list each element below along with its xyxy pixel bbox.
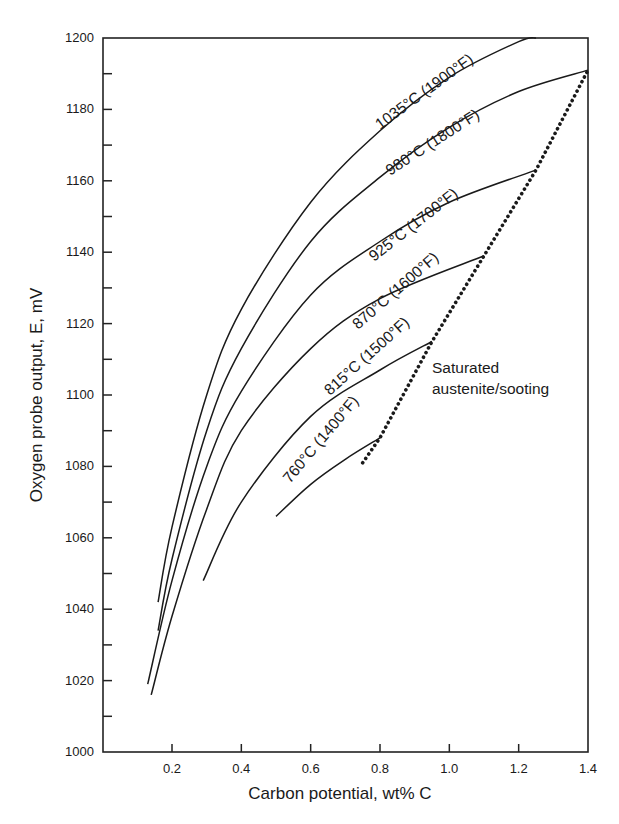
y-axis-ticks: 1000102010401060108011001120114011601180…	[65, 30, 112, 759]
isotherm-curve	[203, 342, 432, 581]
isotherm-curve	[151, 256, 484, 695]
x-axis-ticks: 0.20.40.60.81.01.21.4	[163, 744, 597, 776]
y-tick-label: 1200	[65, 30, 94, 45]
y-tick-label: 1160	[66, 173, 94, 188]
y-tick-label: 1020	[65, 673, 94, 688]
y-tick-label: 1060	[65, 530, 94, 545]
x-tick-label: 1.2	[510, 761, 528, 776]
annotation-saturated: Saturated	[432, 359, 499, 376]
x-tick-label: 1.0	[440, 761, 458, 776]
saturation-line	[363, 70, 588, 463]
series-curves	[148, 38, 588, 695]
x-tick-label: 0.2	[163, 761, 181, 776]
curve-label-925: 925°C (1700°F)	[365, 184, 461, 264]
y-tick-label: 1180	[66, 101, 94, 116]
x-tick-label: 1.4	[579, 761, 597, 776]
y-axis-title: Oxygen probe output, E, mV	[27, 287, 46, 502]
x-tick-label: 0.8	[371, 761, 389, 776]
curve-label-760: 760°C (1400°F)	[279, 392, 361, 486]
chart: 1000102010401060108011001120114011601180…	[0, 0, 619, 824]
isotherm-curve	[148, 170, 536, 684]
annotation-austenite-sooting: austenite/sooting	[432, 380, 549, 397]
x-tick-label: 0.4	[232, 761, 250, 776]
y-tick-label: 1120	[66, 316, 94, 331]
y-tick-label: 1000	[65, 744, 94, 759]
y-tick-label: 1080	[65, 458, 94, 473]
isotherm-curve	[158, 38, 536, 603]
y-tick-label: 1040	[65, 601, 94, 616]
x-tick-label: 0.6	[302, 761, 320, 776]
y-tick-label: 1100	[66, 387, 94, 402]
x-axis-title: Carbon potential, wt% C	[248, 784, 431, 803]
y-tick-label: 1140	[66, 244, 94, 259]
